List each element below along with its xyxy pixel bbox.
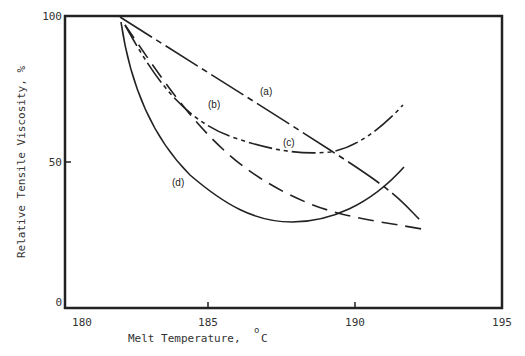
y-tick-label-0: 0 (55, 296, 62, 309)
plot-frame (65, 16, 502, 308)
x-axis-unit-degree: o (254, 325, 259, 335)
curve-label-a: (a) (260, 86, 272, 97)
y-tick-label-100: 100 (42, 10, 62, 23)
x-tick-label-180: 180 (72, 316, 92, 329)
x-tick-label-185: 185 (198, 316, 218, 329)
x-tick-label-190: 190 (345, 316, 365, 329)
x-axis-title: Melt Temperature, (128, 332, 241, 345)
x-axis-unit-c: C (261, 332, 268, 345)
curve-label-c: (c) (283, 137, 295, 148)
curve-label-b: (b) (208, 99, 220, 110)
y-axis-title: Relative Tensile Viscosity, % (15, 66, 28, 258)
curve-label-d: (d) (172, 177, 184, 188)
chart: 100 50 0 180 185 190 195 Melt Temperatur… (0, 0, 525, 356)
curve-a (120, 17, 422, 222)
y-tick-label-50: 50 (49, 156, 62, 169)
curve-d (121, 22, 404, 222)
curve-b (125, 25, 422, 229)
x-tick-label-195: 195 (492, 316, 512, 329)
